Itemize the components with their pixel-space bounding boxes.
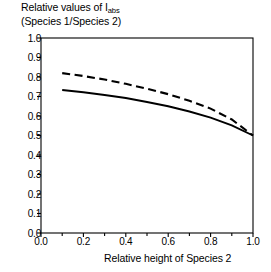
chart-figure: Relative values of Iabs (Species 1/Speci…	[0, 0, 271, 272]
data-curves	[62, 73, 253, 135]
axis-ticks	[37, 38, 253, 237]
plot-frame	[41, 38, 253, 233]
plot-canvas	[0, 0, 271, 272]
axes-frame	[41, 38, 253, 233]
curve-lower-solid	[62, 90, 253, 135]
